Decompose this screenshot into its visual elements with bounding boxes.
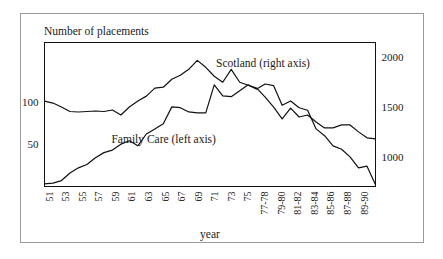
x-axis-tick-label: 65 <box>160 192 171 202</box>
x-axis-tick-label: 77-78 <box>259 192 270 215</box>
x-axis-tick-label: 81-82 <box>292 192 303 215</box>
left-axis-tick-labels: 50100 <box>22 96 39 150</box>
right-axis-tick-labels: 100015002000 <box>382 51 405 162</box>
left-axis-tick-label: 50 <box>28 138 40 150</box>
x-axis-tick-label: 89-90 <box>359 192 370 215</box>
chart-title-group: Number of placements <box>44 25 149 38</box>
x-axis-tick-labels: 5153555759616365676971737577-7879-8081-8… <box>44 192 370 215</box>
x-axis-tick-label: 59 <box>110 192 121 202</box>
x-axis-tick-label: 67 <box>176 192 187 202</box>
chart-title: Number of placements <box>44 25 149 38</box>
x-axis-tick-label: 79-80 <box>276 192 287 215</box>
left-axis-tick-label: 100 <box>22 96 39 108</box>
x-axis-tick-label: 51 <box>44 192 55 202</box>
series-annotation: Family Care (left axis) <box>111 133 216 146</box>
right-axis-tick-label: 1000 <box>382 151 405 163</box>
right-axis-tick-label: 2000 <box>382 51 405 63</box>
chart-svg: Number of placements 50100 100015002000 … <box>0 0 443 259</box>
x-axis-tick-label: 83-84 <box>309 192 320 215</box>
x-axis-tick-label: 73 <box>226 192 237 202</box>
right-axis-tick-label: 1500 <box>382 101 405 113</box>
x-axis-tick-label: 69 <box>193 192 204 202</box>
x-axis-tick-label: 71 <box>209 192 220 202</box>
series-annotation: Scotland (right axis) <box>216 57 310 70</box>
figure-container: Number of placements 50100 100015002000 … <box>0 0 443 259</box>
x-axis-tick-label: 55 <box>77 192 88 202</box>
x-axis-tick-label: 75 <box>242 192 253 202</box>
data-series-lines <box>45 60 376 184</box>
x-axis-tick-label: 85-86 <box>325 192 336 215</box>
x-axis-tick-label: 53 <box>60 192 71 202</box>
x-axis-title: year <box>200 228 220 241</box>
x-axis-tick-label: 63 <box>143 192 154 202</box>
x-axis-tick-label: 87-88 <box>342 192 353 215</box>
plot-area-frame <box>45 43 376 187</box>
x-axis-tick-label: 57 <box>93 192 104 202</box>
x-axis-tick-label: 61 <box>126 192 137 202</box>
